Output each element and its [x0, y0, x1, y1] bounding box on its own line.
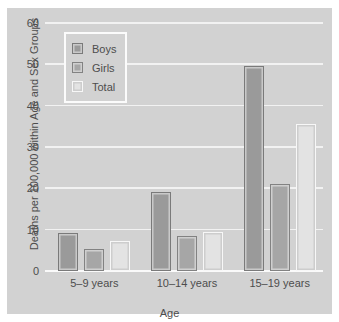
legend-item-girls: Girls: [72, 58, 116, 77]
bar-girls-2: [270, 184, 290, 271]
y-tick-label: 50: [27, 58, 39, 70]
y-tick-label: 30: [27, 141, 39, 153]
gridline: [45, 146, 323, 148]
y-tick-label: 10: [27, 224, 39, 236]
legend-swatch-total: [72, 81, 83, 92]
x-tick-label: 15–19 years: [249, 277, 310, 289]
chart-legend: Boys Girls Total: [64, 32, 127, 103]
legend-item-boys: Boys: [72, 39, 116, 58]
gridline: [45, 22, 323, 24]
bar-total-1: [203, 232, 223, 271]
bar-boys-2: [244, 66, 264, 271]
legend-swatch-girls: [72, 62, 83, 73]
y-tick-label: 20: [27, 182, 39, 194]
y-tick-label: 60: [27, 17, 39, 29]
bar-total-2: [296, 124, 316, 271]
gridline: [45, 105, 323, 107]
x-axis-title: Age: [0, 307, 339, 319]
bar-boys-0: [58, 233, 78, 271]
bar-total-0: [110, 241, 130, 271]
x-tick-label: 10–14 years: [157, 277, 218, 289]
legend-label-girls: Girls: [92, 62, 115, 74]
bar-girls-1: [177, 236, 197, 271]
plot-area: 0102030405060 5–9 years10–14 years15–19 …: [45, 23, 323, 271]
legend-label-total: Total: [92, 81, 115, 93]
y-tick-label: 0: [33, 265, 39, 277]
legend-label-boys: Boys: [92, 43, 116, 55]
bar-girls-0: [84, 249, 104, 271]
bar-boys-1: [151, 192, 171, 271]
legend-item-total: Total: [72, 77, 116, 96]
x-tick-label: 5–9 years: [70, 277, 118, 289]
y-tick-label: 40: [27, 100, 39, 112]
legend-swatch-boys: [72, 43, 83, 54]
chart-figure: Deaths per 100,000 within Age and Sex Gr…: [0, 0, 339, 322]
